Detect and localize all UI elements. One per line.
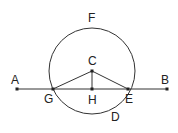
label-f: F bbox=[88, 11, 95, 25]
label-c: C bbox=[88, 54, 97, 68]
geometry-diagram: A B C D E F G H bbox=[0, 0, 178, 133]
segment-cg bbox=[53, 71, 92, 89]
point-g bbox=[52, 88, 55, 91]
label-h: H bbox=[88, 93, 97, 107]
segment-ce bbox=[92, 71, 128, 89]
label-d: D bbox=[111, 110, 120, 124]
label-a: A bbox=[11, 73, 19, 87]
label-b: B bbox=[161, 73, 169, 87]
label-e: E bbox=[125, 92, 133, 106]
point-b bbox=[166, 88, 169, 91]
point-a bbox=[16, 88, 19, 91]
point-e bbox=[127, 88, 130, 91]
label-g: G bbox=[44, 92, 53, 106]
point-c bbox=[91, 70, 94, 73]
point-h bbox=[91, 88, 94, 91]
